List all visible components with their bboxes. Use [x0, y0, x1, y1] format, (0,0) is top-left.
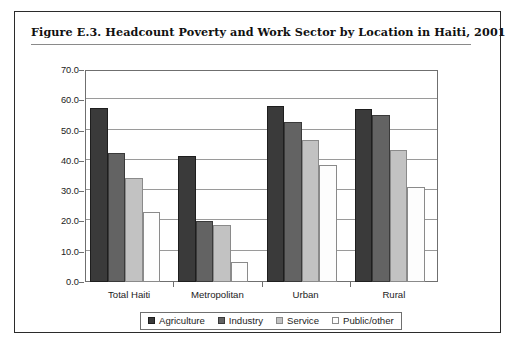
bar: [90, 108, 108, 282]
legend-label: Service: [287, 315, 319, 326]
x-axis-tick-mark: [262, 282, 263, 287]
bar: [355, 109, 373, 282]
y-axis-tick-mark: [79, 252, 84, 253]
chart-area: 70.060.050.040.030.020.010.00.0 Total Ha…: [15, 50, 502, 332]
y-axis-tick-mark: [79, 100, 84, 101]
bar-group: [355, 70, 425, 282]
y-axis-tick-mark: [79, 70, 84, 71]
bar: [372, 115, 390, 282]
bar: [390, 150, 408, 282]
bar: [319, 165, 337, 282]
bar: [231, 262, 249, 282]
bar: [267, 106, 285, 282]
figure-title: Figure E.3. Headcount Poverty and Work S…: [31, 25, 506, 39]
legend-item[interactable]: Public/other: [332, 315, 394, 326]
bar-group: [178, 70, 248, 282]
bar-group: [90, 70, 160, 282]
y-axis-tick-label: 70.0: [27, 65, 79, 75]
bar: [108, 153, 126, 282]
bar: [302, 140, 320, 282]
legend-swatch-icon: [148, 317, 155, 324]
y-axis-tick-label: 40.0: [27, 156, 79, 166]
y-axis-tick-mark: [79, 131, 84, 132]
bar: [196, 221, 214, 282]
legend-swatch-icon: [276, 317, 283, 324]
bars-layer: [85, 70, 438, 282]
bar: [213, 225, 231, 282]
title-divider: [31, 44, 471, 45]
y-axis-tick-label: 10.0: [27, 247, 79, 257]
y-axis-tick-mark: [79, 161, 84, 162]
legend-item[interactable]: Agriculture: [148, 315, 205, 326]
chart-legend: AgricultureIndustryServicePublic/other: [140, 312, 402, 330]
x-axis-tick-label: Metropolitan: [191, 289, 244, 300]
legend-swatch-icon: [332, 317, 339, 324]
y-axis-tick-label: 50.0: [27, 126, 79, 136]
x-axis-tick-label: Total Haiti: [108, 289, 150, 300]
y-axis-tick-label: 0.0: [27, 277, 79, 287]
x-axis-tick-label: Rural: [382, 289, 405, 300]
bar: [407, 187, 425, 282]
legend-label: Industry: [229, 315, 263, 326]
bar: [284, 122, 302, 283]
bar: [125, 178, 143, 282]
bar: [178, 156, 196, 282]
y-axis-tick-mark: [79, 282, 84, 283]
y-axis-labels: 70.060.050.040.030.020.010.00.0: [23, 70, 79, 282]
y-axis-tick-mark: [79, 191, 84, 192]
x-axis-tick-label: Urban: [293, 289, 319, 300]
bar-group: [267, 70, 337, 282]
y-axis-tick-label: 30.0: [27, 186, 79, 196]
bar: [143, 212, 161, 282]
legend-label: Public/other: [343, 315, 394, 326]
x-axis-tick-mark: [173, 282, 174, 287]
x-axis-tick-mark: [350, 282, 351, 287]
legend-item[interactable]: Industry: [218, 315, 263, 326]
y-axis-tick-label: 60.0: [27, 95, 79, 105]
figure-frame: Figure E.3. Headcount Poverty and Work S…: [14, 11, 501, 333]
y-axis-tick-mark: [79, 221, 84, 222]
legend-swatch-icon: [218, 317, 225, 324]
y-axis-tick-label: 20.0: [27, 216, 79, 226]
legend-item[interactable]: Service: [276, 315, 319, 326]
legend-label: Agriculture: [159, 315, 205, 326]
